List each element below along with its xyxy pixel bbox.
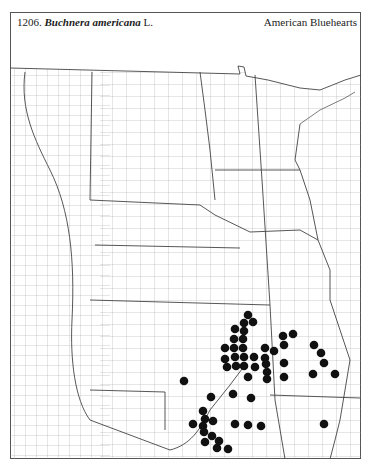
occurrence-dot [199,407,208,416]
occurrence-dot [309,370,318,379]
county-grid [10,60,362,460]
occurrence-dot [331,370,340,379]
occurrence-dot [230,335,239,344]
occurrence-dot [221,344,230,353]
occurrence-dot [247,394,256,403]
occurrence-dot [244,421,253,430]
occurrence-dot [270,347,279,356]
occurrence-dot [240,327,249,336]
occurrence-dot [239,335,248,344]
occurrence-dot [223,363,232,372]
occurrence-dot [262,360,271,369]
occurrence-dot [189,420,198,429]
occurrence-dot [310,341,319,350]
occurrence-dot [229,390,238,399]
occurrence-dot [320,420,329,429]
occurrence-dot [239,344,248,353]
occurrence-dot [240,353,249,362]
occurrence-dot [224,445,233,454]
occurrence-dot [208,432,217,441]
occurrence-dot [251,363,260,372]
occurrence-dot [207,393,216,402]
occurrence-dot [244,311,253,320]
occurrence-dot [320,359,329,368]
occurrence-dot [317,349,326,358]
occurrence-dot [244,373,253,382]
occurrence-dot [250,353,259,362]
occurrence-dot [261,344,270,353]
occurrence-dot [213,444,222,453]
occurrence-dot [279,332,288,341]
occurrence-dot [180,377,189,386]
occurrence-dot [231,325,240,334]
occurrence-dot [231,353,240,362]
occurrence-dot [231,420,240,429]
occurrence-dot [200,428,209,437]
occurrence-dot [240,362,249,371]
occurrence-dot [289,330,298,339]
occurrence-dot [280,373,289,382]
occurrence-dot [201,438,210,447]
occurrence-dot [249,318,258,327]
occurrence-dot [280,359,289,368]
occurrence-dot [280,341,289,350]
occurrence-dot [232,362,241,371]
occurrence-dot [209,417,218,426]
occurrence-dot [230,344,239,353]
occurrence-dot [257,422,266,431]
occurrence-dot [221,355,230,364]
distribution-map [0,0,370,471]
occurrence-dot [263,375,272,384]
occurrence-dot [240,319,249,328]
